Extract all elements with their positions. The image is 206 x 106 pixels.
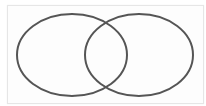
right-set-ellipse (85, 14, 193, 96)
venn-diagram (0, 0, 206, 106)
left-set-ellipse (17, 14, 127, 96)
